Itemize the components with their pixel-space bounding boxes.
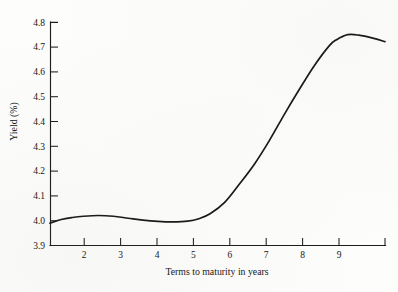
x-tick-label: 6 [227,250,232,260]
y-tick-marks [51,22,59,245]
x-tick-label: 7 [264,250,269,260]
y-tick-label: 4.8 [33,18,45,28]
x-tick-label: 5 [191,250,196,260]
y-tick-label: 4.1 [33,191,45,201]
x-tick-label: 4 [155,250,160,260]
x-tick-label: 8 [300,250,305,260]
y-tick-label: 4.6 [33,67,45,77]
x-tick-label: 2 [82,250,87,260]
axes-group [50,22,386,246]
x-tick-label: 9 [337,250,342,260]
yield-curve-line [50,34,385,223]
y-tick-label: 4.4 [33,117,45,127]
y-tick-label: 4.5 [33,92,45,102]
x-tick-marks [84,238,339,246]
y-tick-label: 4.2 [33,166,45,176]
y-tick-label: 4.7 [33,42,45,52]
x-tick-labels: 2 3 4 5 6 7 8 9 [82,250,342,260]
x-axis-title: Terms to maturity in years [165,266,268,277]
yield-curve-figure: 4.8 4.7 4.6 4.5 4.4 4.3 4.2 4.1 4.0 3.9 … [0,0,398,292]
y-axis-title: Yield (%) [8,102,20,140]
x-tick-label: 3 [118,250,123,260]
y-tick-label: 3.9 [33,241,45,251]
y-tick-label: 4.0 [33,216,45,226]
chart-canvas: 4.8 4.7 4.6 4.5 4.4 4.3 4.2 4.1 4.0 3.9 … [0,0,398,292]
y-tick-label: 4.3 [33,142,45,152]
y-tick-labels: 4.8 4.7 4.6 4.5 4.4 4.3 4.2 4.1 4.0 3.9 [33,18,45,251]
